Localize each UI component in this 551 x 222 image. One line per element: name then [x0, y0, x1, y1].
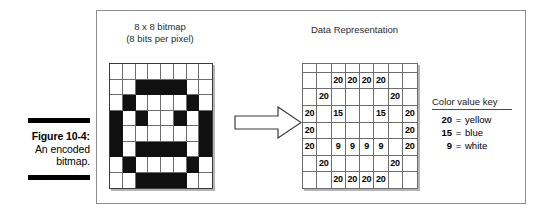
- data-cell: 20: [374, 73, 388, 90]
- data-cell: [374, 123, 388, 140]
- bitmap-cell: [187, 80, 200, 96]
- data-cell: [303, 172, 317, 188]
- data-cell: [389, 73, 403, 90]
- data-cell: [303, 73, 317, 90]
- bitmap-cell: [199, 126, 212, 142]
- data-cell: [360, 106, 374, 123]
- bitmap-cell: [123, 95, 136, 111]
- bitmap-cell: [187, 173, 200, 189]
- bitmap-cell: [136, 95, 149, 111]
- bitmap-cell: [199, 95, 212, 111]
- bitmap-cell: [161, 80, 174, 96]
- data-cell: 9: [374, 139, 388, 156]
- data-representation-grid: 2020202020202015152020202099992020202020…: [302, 63, 418, 189]
- data-cell: [360, 156, 374, 173]
- data-cell: 20: [303, 123, 317, 140]
- data-cell: [346, 106, 360, 123]
- data-cell: [303, 64, 317, 73]
- data-cell: [332, 89, 346, 106]
- bitmap-cell: [110, 111, 123, 127]
- color-key-value: 9: [432, 139, 452, 152]
- bitmap-cell: [148, 111, 161, 127]
- bitmap-cell: [187, 111, 200, 127]
- data-cell: 9: [360, 139, 374, 156]
- bitmap-cell: [136, 80, 149, 96]
- bitmap-cell: [110, 157, 123, 173]
- bitmap-cell: [161, 173, 174, 189]
- color-key-name: blue: [465, 126, 483, 139]
- bitmap-cell: [110, 126, 123, 142]
- color-key-divider: [432, 109, 512, 110]
- data-cell: [346, 64, 360, 73]
- data-cell: [332, 156, 346, 173]
- bitmap-cell: [174, 157, 187, 173]
- bitmap-cell: [148, 80, 161, 96]
- data-cell: [374, 64, 388, 73]
- bitmap-cell: [136, 157, 149, 173]
- bitmap-cell: [110, 142, 123, 158]
- bitmap-cell: [187, 142, 200, 158]
- data-cell: 20: [303, 106, 317, 123]
- data-cell: [346, 123, 360, 140]
- data-cell: [332, 64, 346, 73]
- data-cell: [403, 89, 417, 106]
- bitmap-cell: [199, 111, 212, 127]
- bitmap-cell: [123, 126, 136, 142]
- data-cell: [317, 172, 331, 188]
- data-cell: [317, 123, 331, 140]
- bitmap-cell: [174, 64, 187, 80]
- data-cell: 20: [374, 172, 388, 188]
- color-key-equals: =: [452, 113, 465, 126]
- color-key-row: 15=blue: [432, 126, 524, 139]
- bitmap-cell: [148, 142, 161, 158]
- data-cell: 9: [346, 139, 360, 156]
- bitmap-cell: [148, 157, 161, 173]
- bitmap-cell: [174, 142, 187, 158]
- bitmap-cell: [174, 173, 187, 189]
- bitmap-cell: [161, 64, 174, 80]
- bitmap-cell: [123, 142, 136, 158]
- data-cell: [303, 89, 317, 106]
- bitmap-cell: [123, 157, 136, 173]
- bitmap-cell: [123, 111, 136, 127]
- data-cell: [346, 89, 360, 106]
- data-cell: 20: [389, 89, 403, 106]
- bitmap-cell: [148, 64, 161, 80]
- bitmap-cell: [199, 64, 212, 80]
- data-cell: 20: [303, 139, 317, 156]
- caption-line-3: bitmap.: [0, 155, 90, 168]
- caption-rule-bottom: [28, 175, 90, 180]
- data-cell: 20: [332, 172, 346, 188]
- data-cell: 20: [389, 156, 403, 173]
- color-key-name: yellow: [465, 113, 491, 126]
- bitmap-cell: [123, 64, 136, 80]
- data-cell: 20: [403, 139, 417, 156]
- caption-rule-top: [28, 118, 90, 123]
- data-cell: [389, 172, 403, 188]
- data-cell: [389, 139, 403, 156]
- bitmap-cell: [110, 95, 123, 111]
- bitmap-cell: [174, 111, 187, 127]
- data-cell: [332, 123, 346, 140]
- bitmap-heading-line-2: (8 bits per pixel): [104, 33, 216, 45]
- data-cell: [360, 89, 374, 106]
- data-cell: [389, 123, 403, 140]
- bitmap-cell: [187, 95, 200, 111]
- data-representation-heading: Data Representation: [283, 24, 426, 36]
- bitmap-cell: [161, 95, 174, 111]
- bitmap-cell: [136, 126, 149, 142]
- data-cell: [303, 156, 317, 173]
- bitmap-cell: [148, 126, 161, 142]
- bitmap-cell: [148, 95, 161, 111]
- data-cell: [360, 64, 374, 73]
- bitmap-cell: [161, 142, 174, 158]
- bitmap-cell: [136, 64, 149, 80]
- bitmap-cell: [161, 157, 174, 173]
- color-key-value: 20: [432, 113, 452, 126]
- bitmap-cell: [174, 126, 187, 142]
- bitmap-cell: [174, 80, 187, 96]
- data-cell: [317, 139, 331, 156]
- bitmap-cell: [161, 111, 174, 127]
- bitmap-heading-line-1: 8 x 8 bitmap: [104, 21, 216, 33]
- bitmap-cell: [136, 111, 149, 127]
